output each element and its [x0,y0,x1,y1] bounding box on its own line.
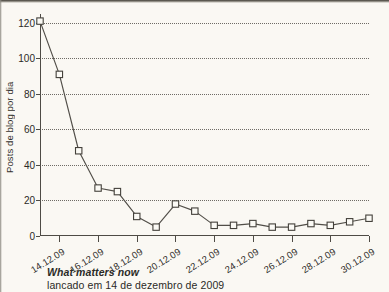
figure-caption: What matters now lancado em 14 de dezemb… [47,266,367,292]
data-point-marker [95,185,101,191]
x-tick-mark [330,236,331,242]
data-point-marker [153,224,159,230]
y-tick-label: 20 [24,195,35,206]
x-tick-mark [214,236,215,242]
data-point-marker [134,213,140,219]
y-tick-label: 0 [29,231,35,242]
y-axis-label: Posts de blog por dia [1,62,19,192]
caption-title: What matters now [47,266,367,279]
data-point-marker [346,219,352,225]
x-tick-mark [59,236,60,242]
y-tick-label: 100 [18,53,35,64]
blog-posts-line-chart: Posts de blog por dia 020406080100120 14… [0,0,389,292]
data-point-marker [269,224,275,230]
plot-area: 020406080100120 14.12.0916.12.0918.12.09… [40,14,369,236]
data-point-marker [250,220,256,226]
data-point-marker [37,18,43,24]
x-tick-mark [98,236,99,242]
data-point-marker [366,215,372,221]
data-series [40,14,369,236]
data-point-marker [192,208,198,214]
y-tick-label: 40 [24,159,35,170]
data-point-marker [211,222,217,228]
data-point-marker [56,71,62,77]
data-point-marker [172,201,178,207]
data-point-marker [114,188,120,194]
series-line [40,21,369,227]
x-tick-mark [292,236,293,242]
data-point-marker [308,220,314,226]
y-tick-label: 60 [24,124,35,135]
y-tick-label: 80 [24,88,35,99]
data-point-marker [230,222,236,228]
data-point-marker [76,148,82,154]
data-point-marker [327,222,333,228]
data-point-marker [288,224,294,230]
y-tick-mark [36,236,40,237]
x-tick-mark [253,236,254,242]
caption-subtitle: lancado em 14 de dezembro de 2009 [47,279,367,292]
x-tick-mark [369,236,370,242]
y-tick-label: 120 [18,17,35,28]
chart-page: Posts de blog por dia 020406080100120 14… [0,0,389,292]
x-tick-mark [175,236,176,242]
x-tick-mark [137,236,138,242]
